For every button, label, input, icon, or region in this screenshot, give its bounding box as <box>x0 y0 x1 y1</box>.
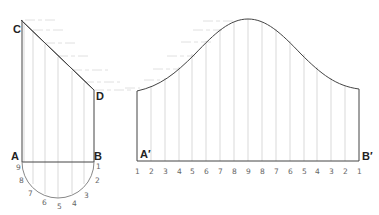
baseline-number: 5 <box>302 167 307 176</box>
baseline-number: 2 <box>343 167 348 176</box>
elevation-element-lines <box>24 22 84 198</box>
semicircle-number: 5 <box>57 202 62 211</box>
label-a-prime: A′ <box>140 148 151 160</box>
semicircle-number: 3 <box>84 191 89 200</box>
baseline-number: 7 <box>218 167 223 176</box>
baseline-number: 6 <box>288 167 293 176</box>
label-c: C <box>13 23 21 35</box>
baseline-number: 1 <box>357 167 362 176</box>
semicircle-number: 4 <box>72 199 77 208</box>
elevation-outline <box>21 20 94 162</box>
cut-line-cd <box>21 20 94 90</box>
semicircle-number: 1 <box>96 162 101 171</box>
baseline-number: 1 <box>135 167 140 176</box>
label-b-prime: B′ <box>362 150 373 162</box>
baseline-number: 8 <box>260 167 265 176</box>
elevation-view: C D A B 9 8 7 6 5 4 3 2 1 <box>11 20 132 211</box>
development-element-lines <box>151 19 345 161</box>
baseline-number: 3 <box>163 167 168 176</box>
baseline-number: 2 <box>149 167 154 176</box>
baseline-numbers: 1 2 3 4 5 6 7 8 9 8 7 6 5 4 3 2 1 <box>135 167 362 176</box>
semicircle-number: 7 <box>28 189 33 198</box>
label-a: A <box>11 150 19 162</box>
baseline-number: 9 <box>246 167 251 176</box>
semicircle-number: 2 <box>95 176 100 185</box>
elevation-projection-lines <box>25 20 132 90</box>
development-view: A′ B′ 1 2 3 4 5 6 7 8 9 8 7 6 5 4 3 2 1 <box>125 19 373 176</box>
baseline-number: 8 <box>232 167 237 176</box>
semicircle-number: 6 <box>42 198 47 207</box>
baseline-number: 4 <box>315 167 320 176</box>
label-b: B <box>94 150 102 162</box>
semicircle-number: 8 <box>19 176 24 185</box>
cylinder-development-diagram: C D A B 9 8 7 6 5 4 3 2 1 <box>0 0 379 215</box>
baseline-number: 6 <box>204 167 209 176</box>
baseline-number: 3 <box>329 167 334 176</box>
baseline-number: 5 <box>190 167 195 176</box>
baseline-number: 4 <box>177 167 182 176</box>
baseline-number: 7 <box>274 167 279 176</box>
semicircle-number: 9 <box>16 163 21 172</box>
label-d: D <box>96 90 104 102</box>
semicircle-numbers: 9 8 7 6 5 4 3 2 1 <box>16 162 101 211</box>
